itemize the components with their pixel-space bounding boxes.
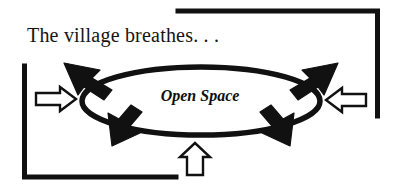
inflow-arrow-right xyxy=(326,88,366,112)
figure-canvas: The village breathes. . . Open Space xyxy=(0,0,400,193)
cycle-arrow-bottom-left xyxy=(108,105,142,146)
figure-caption: The village breathes. . . xyxy=(27,25,219,46)
inflow-arrow-bottom xyxy=(180,143,210,175)
cycle-arrow-bottom-right xyxy=(260,105,294,146)
inflow-arrow-left xyxy=(36,87,76,111)
